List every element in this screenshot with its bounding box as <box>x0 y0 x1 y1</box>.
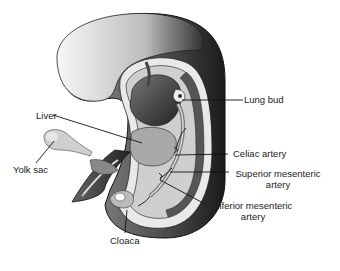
label-superior-mesenteric-line1: Superior mesenteric <box>230 168 326 179</box>
label-superior-mesenteric-line2: artery <box>230 179 326 190</box>
yolk-sac <box>44 130 92 156</box>
liver <box>130 127 176 166</box>
label-inferior-mesenteric-line2: artery <box>206 211 300 222</box>
embryo-illustration: ah-K <box>0 0 340 271</box>
label-superior-mesenteric-artery: Superior mesenteric artery <box>230 168 326 190</box>
label-lung-bud: Lung bud <box>244 94 284 105</box>
label-cloaca: Cloaca <box>110 235 140 246</box>
heart <box>130 75 181 126</box>
label-yolk-sac: Yolk sac <box>13 164 48 175</box>
label-liver: Liver <box>36 110 57 121</box>
artist-signature: ah-K <box>76 192 84 197</box>
label-celiac-artery: Celiac artery <box>233 148 286 159</box>
label-inferior-mesenteric-line1: Inferior mesenteric <box>206 200 300 211</box>
label-inferior-mesenteric-artery: Inferior mesenteric artery <box>206 200 300 222</box>
